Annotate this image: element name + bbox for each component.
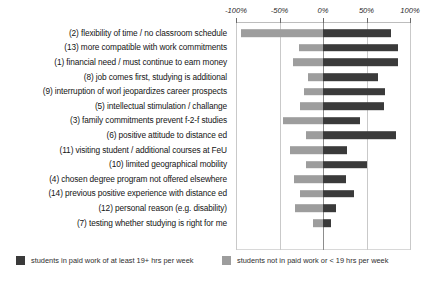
- category-label: (1) financial need / must continue to ea…: [0, 58, 232, 67]
- bar-positive: [323, 30, 391, 38]
- bar-negative: [295, 205, 323, 213]
- bar-positive: [323, 59, 398, 67]
- bar-negative: [290, 146, 323, 154]
- chart-row: (7) testing whether studying is right fo…: [0, 216, 429, 231]
- row-bars: [232, 55, 422, 70]
- bar-negative: [300, 102, 323, 110]
- category-label: (13) more compatible with work commitmen…: [0, 43, 232, 52]
- diverging-bar-chart: -100%-50%0%50%100% (2) flexibility of ti…: [0, 0, 429, 287]
- chart-legend: students in paid work of at least 19+ hr…: [0, 256, 429, 272]
- category-label: (14) previous positive experience with d…: [0, 189, 232, 198]
- row-bars: [232, 216, 422, 231]
- chart-row: (4) chosen degree program not offered el…: [0, 172, 429, 187]
- row-bars: [232, 99, 422, 114]
- bar-negative: [306, 132, 323, 140]
- chart-row: (13) more compatible with work commitmen…: [0, 41, 429, 56]
- chart-rows: (2) flexibility of time / no classroom s…: [0, 26, 429, 230]
- chart-row: (8) job comes first, studying is additio…: [0, 70, 429, 85]
- category-label: (8) job comes first, studying is additio…: [0, 73, 232, 82]
- bar-positive: [323, 44, 398, 52]
- row-bars: [232, 201, 422, 216]
- bar-negative: [294, 175, 323, 183]
- bar-positive: [323, 219, 331, 227]
- row-bars: [232, 187, 422, 202]
- chart-row: (11) visiting student / additional cours…: [0, 143, 429, 158]
- tick-mark: [410, 18, 411, 23]
- category-label: (12) personal reason (e.g. disability): [0, 204, 232, 213]
- chart-row: (2) flexibility of time / no classroom s…: [0, 26, 429, 41]
- category-label: (10) limited geographical mobility: [0, 160, 232, 169]
- row-bars: [232, 70, 422, 85]
- bar-positive: [323, 73, 378, 81]
- bar-positive: [323, 175, 346, 183]
- row-bars: [232, 114, 422, 129]
- chart-row: (6) positive attitude to distance ed: [0, 128, 429, 143]
- legend-swatch: [16, 256, 25, 265]
- category-label: (7) testing whether studying is right fo…: [0, 219, 232, 228]
- bar-negative: [300, 190, 323, 198]
- chart-row: (5) intellectual stimulation / challange: [0, 99, 429, 114]
- bar-positive: [323, 117, 360, 125]
- bar-positive: [323, 88, 385, 96]
- row-bars: [232, 26, 422, 41]
- bar-positive: [323, 161, 367, 169]
- axis-tick-label: -50%: [271, 6, 289, 15]
- legend-item: students in paid work of at least 19+ hr…: [16, 256, 193, 265]
- bar-positive: [323, 102, 384, 110]
- axis-tick-label: -100%: [225, 6, 247, 15]
- category-label: (11) visiting student / additional cours…: [0, 146, 232, 155]
- row-bars: [232, 41, 422, 56]
- bar-positive: [323, 132, 396, 140]
- category-label: (4) chosen degree program not offered el…: [0, 175, 232, 184]
- row-bars: [232, 84, 422, 99]
- axis-tick-label: 0%: [318, 6, 329, 15]
- category-label: (3) family commitments prevent f-2-f stu…: [0, 116, 232, 125]
- chart-row: (3) family commitments prevent f-2-f stu…: [0, 114, 429, 129]
- tick-mark: [323, 18, 324, 23]
- tick-mark: [367, 18, 368, 23]
- category-label: (5) intellectual stimulation / challange: [0, 102, 232, 111]
- chart-row: (12) personal reason (e.g. disability): [0, 201, 429, 216]
- legend-label: students in paid work of at least 19+ hr…: [31, 256, 193, 265]
- bar-negative: [313, 219, 323, 227]
- legend-item: students not in paid work or < 19 hrs pe…: [222, 256, 388, 265]
- bar-positive: [323, 146, 347, 154]
- row-bars: [232, 172, 422, 187]
- row-bars: [232, 128, 422, 143]
- row-bars: [232, 143, 422, 158]
- category-label: (2) flexibility of time / no classroom s…: [0, 29, 232, 38]
- chart-row: (9) interruption of worl jeopardizes car…: [0, 84, 429, 99]
- category-label: (9) interruption of worl jeopardizes car…: [0, 87, 232, 96]
- tick-mark: [280, 18, 281, 23]
- axis-tick-label: 50%: [359, 6, 374, 15]
- bar-negative: [299, 44, 323, 52]
- bar-positive: [323, 190, 354, 198]
- category-label: (6) positive attitude to distance ed: [0, 131, 232, 140]
- bar-negative: [283, 117, 323, 125]
- bar-negative: [293, 59, 323, 67]
- axis-tick-label: 100%: [400, 6, 419, 15]
- chart-row: (14) previous positive experience with d…: [0, 187, 429, 202]
- bar-positive: [323, 205, 336, 213]
- bar-negative: [306, 161, 323, 169]
- bar-negative: [308, 73, 323, 81]
- legend-label: students not in paid work or < 19 hrs pe…: [237, 256, 388, 265]
- chart-row: (1) financial need / must continue to ea…: [0, 55, 429, 70]
- chart-row: (10) limited geographical mobility: [0, 157, 429, 172]
- bar-negative: [304, 88, 323, 96]
- bar-negative: [241, 30, 323, 38]
- legend-swatch: [222, 256, 231, 265]
- tick-mark: [236, 18, 237, 23]
- row-bars: [232, 157, 422, 172]
